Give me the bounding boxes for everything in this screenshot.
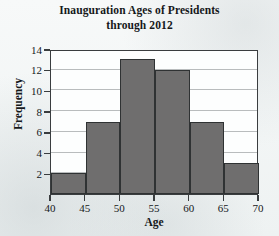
x-tick-mark	[257, 195, 258, 201]
x-tick-mark	[49, 195, 50, 201]
y-tick-label: 2	[16, 169, 42, 180]
x-tick-label: 45	[70, 202, 100, 214]
x-tick-label: 70	[243, 202, 273, 214]
x-tick-label: 55	[139, 202, 169, 214]
histogram-bar	[224, 163, 259, 194]
x-tick-mark	[188, 195, 189, 201]
y-tick-mark	[44, 70, 50, 71]
x-axis-title: Age	[50, 216, 258, 228]
x-tick-label: 60	[174, 202, 204, 214]
bars-layer	[51, 51, 257, 194]
histogram-bar	[51, 173, 86, 194]
x-tick-label: 50	[104, 202, 134, 214]
y-tick-mark	[44, 132, 50, 133]
y-tick-mark	[44, 153, 50, 154]
y-tick-mark	[44, 49, 50, 50]
y-tick-label: 4	[16, 148, 42, 159]
histogram-chart: Inauguration Ages of Presidents through …	[0, 0, 279, 236]
y-tick-label: 14	[16, 45, 42, 56]
histogram-bar	[190, 122, 225, 195]
x-tick-label: 40	[35, 202, 65, 214]
y-tick-mark	[44, 111, 50, 112]
histogram-bar	[155, 70, 190, 194]
x-tick-mark	[223, 195, 224, 201]
x-tick-mark	[153, 195, 154, 201]
x-tick-label: 65	[208, 202, 238, 214]
y-axis-title: Frequency	[12, 64, 24, 144]
plot-area	[50, 50, 258, 195]
histogram-bar	[86, 122, 121, 195]
histogram-bar	[120, 59, 155, 194]
x-tick-mark	[119, 195, 120, 201]
x-tick-mark	[84, 195, 85, 201]
y-tick-mark	[44, 91, 50, 92]
y-tick-mark	[44, 174, 50, 175]
